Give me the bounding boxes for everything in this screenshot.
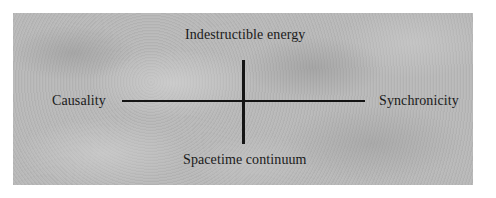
bottom-axis-label: Spacetime continuum: [183, 152, 307, 168]
left-axis-label: Causality: [52, 93, 106, 109]
right-axis-label: Synchronicity: [379, 93, 459, 109]
horizontal-axis-line: [122, 100, 365, 102]
vertical-axis-line: [242, 60, 245, 144]
top-axis-label: Indestructible energy: [185, 27, 305, 43]
